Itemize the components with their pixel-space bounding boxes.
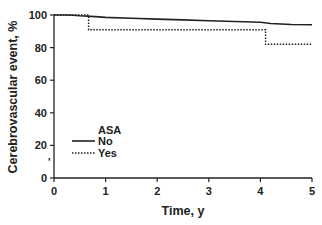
y-tick-label: 80: [35, 42, 47, 54]
legend: ASA No Yes: [72, 124, 121, 159]
y-tick-label: 40: [35, 107, 47, 119]
series-no: [54, 15, 312, 25]
survival-chart: 020406080100012345 Cerebrovascular event…: [0, 0, 322, 225]
y-tick-label: 100: [29, 9, 47, 21]
y-axis-title: Cerebrovascular event, %: [6, 21, 20, 174]
legend-label-no: No: [98, 135, 113, 147]
x-tick-label: 1: [103, 185, 109, 197]
axes: 020406080100012345: [29, 9, 315, 197]
stray-annotation: ': [48, 156, 51, 168]
x-axis-title: Time, y: [162, 204, 205, 218]
x-tick-label: 4: [257, 185, 264, 197]
y-tick-label: 0: [41, 172, 47, 184]
y-tick-label: 60: [35, 74, 47, 86]
x-tick-label: 0: [51, 185, 57, 197]
x-tick-label: 5: [309, 185, 315, 197]
y-tick-label: 20: [35, 139, 47, 151]
x-tick-label: 3: [206, 185, 212, 197]
legend-label-yes: Yes: [98, 147, 117, 159]
x-tick-label: 2: [154, 185, 160, 197]
series-lines: [54, 15, 312, 44]
